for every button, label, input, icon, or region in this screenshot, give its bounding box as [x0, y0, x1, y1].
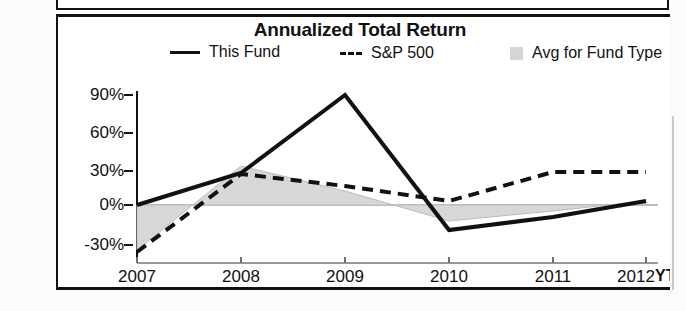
- gray-swatch-icon: [510, 47, 523, 60]
- series-canvas: [58, 73, 670, 265]
- dashed-line-icon: [340, 52, 362, 55]
- x-tick-label-2011: 2011: [535, 267, 572, 287]
- legend-label-avg-fund-type: Avg for Fund Type: [532, 44, 662, 62]
- series-sp-500-line: [137, 172, 646, 252]
- legend-item-avg-fund-type: Avg for Fund Type: [510, 44, 662, 62]
- x-axis: 2007 2008 2009 2010 2011 2012 YT: [58, 263, 670, 290]
- chart-title: Annualized Total Return: [58, 19, 662, 41]
- legend-label-sp-500: S&P 500: [371, 44, 434, 62]
- x-tick-label-2010: 2010: [430, 267, 468, 287]
- x-axis-ytd-label: YT: [655, 267, 670, 285]
- chart-legend: This Fund S&P 500 Avg for Fund Type: [58, 43, 670, 67]
- x-tick-label-2009: 2009: [326, 267, 364, 287]
- series-avg-for-fund-type-band: [137, 166, 646, 250]
- x-tick-label-2008: 2008: [222, 267, 260, 287]
- legend-item-sp-500: S&P 500: [340, 44, 434, 62]
- adjacent-panel-fragment: [56, 0, 669, 10]
- chart-screenshot: Annualized Total Return This Fund S&P 50…: [0, 0, 686, 311]
- plot-area: 90% 60% 30% 0% -30%: [58, 73, 670, 290]
- x-tick-label-2012: 2012: [617, 267, 655, 287]
- right-edge-rule: [672, 116, 674, 290]
- annualized-total-return-panel: Annualized Total Return This Fund S&P 50…: [56, 14, 670, 290]
- solid-line-icon: [170, 51, 200, 54]
- legend-label-this-fund: This Fund: [209, 43, 280, 61]
- legend-item-this-fund: This Fund: [170, 43, 280, 61]
- x-tick-label-2007: 2007: [118, 267, 156, 287]
- series-this-fund-line: [137, 95, 646, 230]
